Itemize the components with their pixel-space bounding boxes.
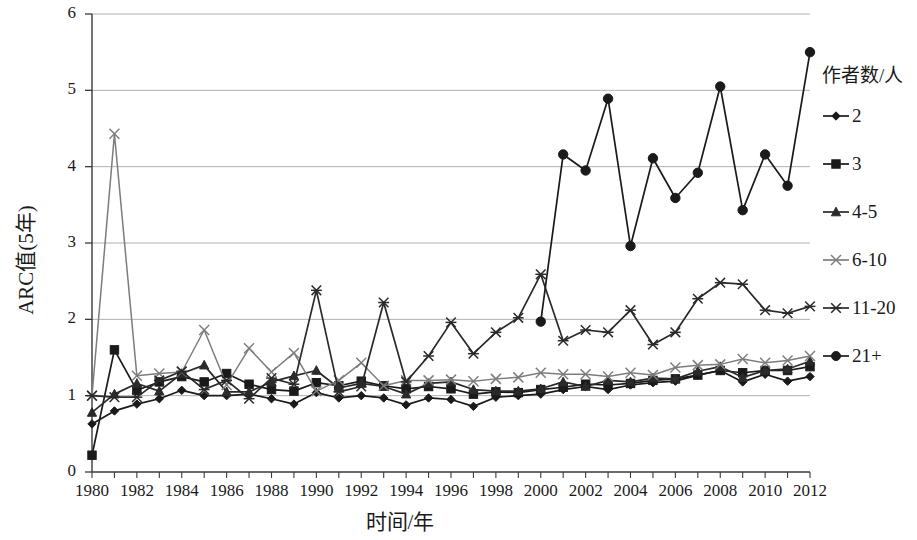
y-axis-label: ARC值(5年) [2, 130, 46, 390]
y-tick-label: 0 [54, 461, 76, 481]
y-tick-label: 2 [54, 308, 76, 328]
x-tick-label: 1996 [426, 481, 476, 501]
x-tick-label: 1998 [471, 481, 521, 501]
legend-entries: 234-56-1011-2021+ [822, 106, 917, 366]
x-tick-label: 2008 [695, 481, 745, 501]
legend-label: 3 [852, 153, 862, 175]
x-tick-label: 1994 [381, 481, 431, 501]
legend-label: 11-20 [852, 297, 896, 319]
y-tick-label: 1 [54, 385, 76, 405]
x-tick-label: 2012 [785, 481, 835, 501]
legend-marker-triangle-icon [822, 204, 850, 220]
legend-marker-star-icon [822, 300, 850, 316]
legend-marker-circle-icon [822, 348, 850, 364]
x-tick-label: 1982 [112, 481, 162, 501]
chart-figure: ARC值(5年) 时间/年 作者数/人 234-56-1011-2021+ 01… [0, 0, 917, 540]
legend-marker-square-icon [822, 156, 850, 172]
x-tick-label: 1990 [291, 481, 341, 501]
chart-plot-area [0, 0, 917, 540]
x-tick-label: 2006 [650, 481, 700, 501]
x-tick-label: 2002 [561, 481, 611, 501]
legend-label: 21+ [852, 345, 882, 367]
series-6-10 [87, 129, 815, 401]
legend-item-6-10[interactable]: 6-10 [822, 250, 917, 270]
legend-item-21+[interactable]: 21+ [822, 346, 917, 366]
legend-item-4-5[interactable]: 4-5 [822, 202, 917, 222]
x-tick-label: 1992 [336, 481, 386, 501]
legend-label: 6-10 [852, 249, 887, 271]
legend-item-3[interactable]: 3 [822, 154, 917, 174]
x-tick-label: 1988 [247, 481, 297, 501]
x-tick-label: 1984 [157, 481, 207, 501]
y-tick-label: 5 [54, 79, 76, 99]
chart-legend: 作者数/人 234-56-1011-2021+ [822, 60, 917, 394]
x-tick-label: 1986 [202, 481, 252, 501]
legend-marker-x-icon [822, 252, 850, 268]
y-tick-label: 3 [54, 232, 76, 252]
legend-item-11-20[interactable]: 11-20 [822, 298, 917, 318]
series-2 [88, 366, 814, 428]
legend-label: 2 [852, 105, 862, 127]
legend-item-2[interactable]: 2 [822, 106, 917, 126]
legend-label: 4-5 [852, 201, 877, 223]
x-tick-label: 2010 [740, 481, 790, 501]
legend-marker-diamond-icon [822, 108, 850, 124]
x-tick-label: 2000 [516, 481, 566, 501]
legend-title: 作者数/人 [822, 60, 917, 87]
x-axis-label: 时间/年 [0, 505, 800, 535]
y-tick-label: 6 [54, 3, 76, 23]
x-tick-label: 2004 [606, 481, 656, 501]
x-tick-label: 1980 [67, 481, 117, 501]
y-axis-label-text: ARC值(5年) [9, 205, 39, 315]
y-tick-label: 4 [54, 156, 76, 176]
series-21+ [536, 47, 815, 326]
